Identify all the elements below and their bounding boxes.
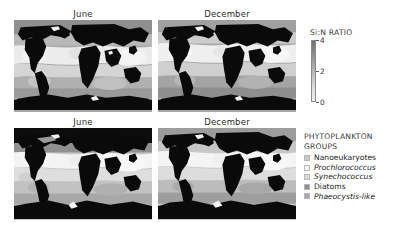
- legend-title-line1: PHYTOPLANKTON: [304, 132, 412, 142]
- legend-swatch-phaeocystis-like: [304, 193, 310, 199]
- legend-title-line2: GROUPS: [304, 142, 412, 152]
- legend-items: Nanoeukaryotes Prochlorococcus Synechoco…: [304, 153, 412, 201]
- legend-label-phaeocystis-like: Phaeocystis-like: [314, 192, 375, 202]
- colorbar-tick-0: [316, 102, 319, 103]
- colorbar-label-0: 0: [320, 99, 325, 106]
- legend-item-phaeocystis-like: Phaeocystis-like: [304, 192, 412, 202]
- legend-swatch-prochlorococcus: [304, 165, 310, 171]
- colorbar-si-n: Si:N RATIO 4 2 0: [304, 28, 404, 112]
- panel-title-si-n-june: June: [14, 9, 152, 19]
- colorbar-label-4: 4: [320, 37, 325, 44]
- map-svg-phyto-june: [14, 128, 152, 220]
- map-panel-phyto-december: [158, 128, 296, 220]
- map-svg-si-n-december: [158, 20, 296, 112]
- panel-title-phyto-june: June: [14, 117, 152, 127]
- legend-item-diatoms: Diatoms: [304, 182, 412, 192]
- legend-label-diatoms: Diatoms: [314, 182, 346, 192]
- colorbar-tick-4: [316, 40, 319, 41]
- legend-item-prochlorococcus: Prochlorococcus: [304, 163, 412, 173]
- legend-swatch-nanoeukaryotes: [304, 155, 310, 161]
- legend-label-nanoeukaryotes: Nanoeukaryotes: [314, 153, 376, 163]
- legend-swatch-diatoms: [304, 184, 310, 190]
- panel-title-si-n-december: December: [158, 9, 296, 19]
- panel-title-phyto-december: December: [158, 117, 296, 127]
- map-panel-si-n-december: [158, 20, 296, 112]
- legend-item-nanoeukaryotes: Nanoeukaryotes: [304, 153, 412, 163]
- colorbar-tick-2: [316, 71, 319, 72]
- map-panel-si-n-june: [14, 20, 152, 112]
- figure-root: June: [0, 0, 414, 230]
- phytoplankton-legend: PHYTOPLANKTON GROUPS Nanoeukaryotes Proc…: [304, 132, 412, 201]
- legend-item-synechococcus: Synechococcus: [304, 172, 412, 182]
- colorbar-title: Si:N RATIO: [310, 28, 353, 37]
- legend-swatch-synechococcus: [304, 174, 310, 180]
- colorbar-label-2: 2: [320, 68, 325, 75]
- map-panel-phyto-june: [14, 128, 152, 220]
- map-svg-si-n-june: [14, 20, 152, 112]
- map-svg-phyto-december: [158, 128, 296, 220]
- legend-label-prochlorococcus: Prochlorococcus: [314, 163, 376, 173]
- legend-label-synechococcus: Synechococcus: [314, 172, 372, 182]
